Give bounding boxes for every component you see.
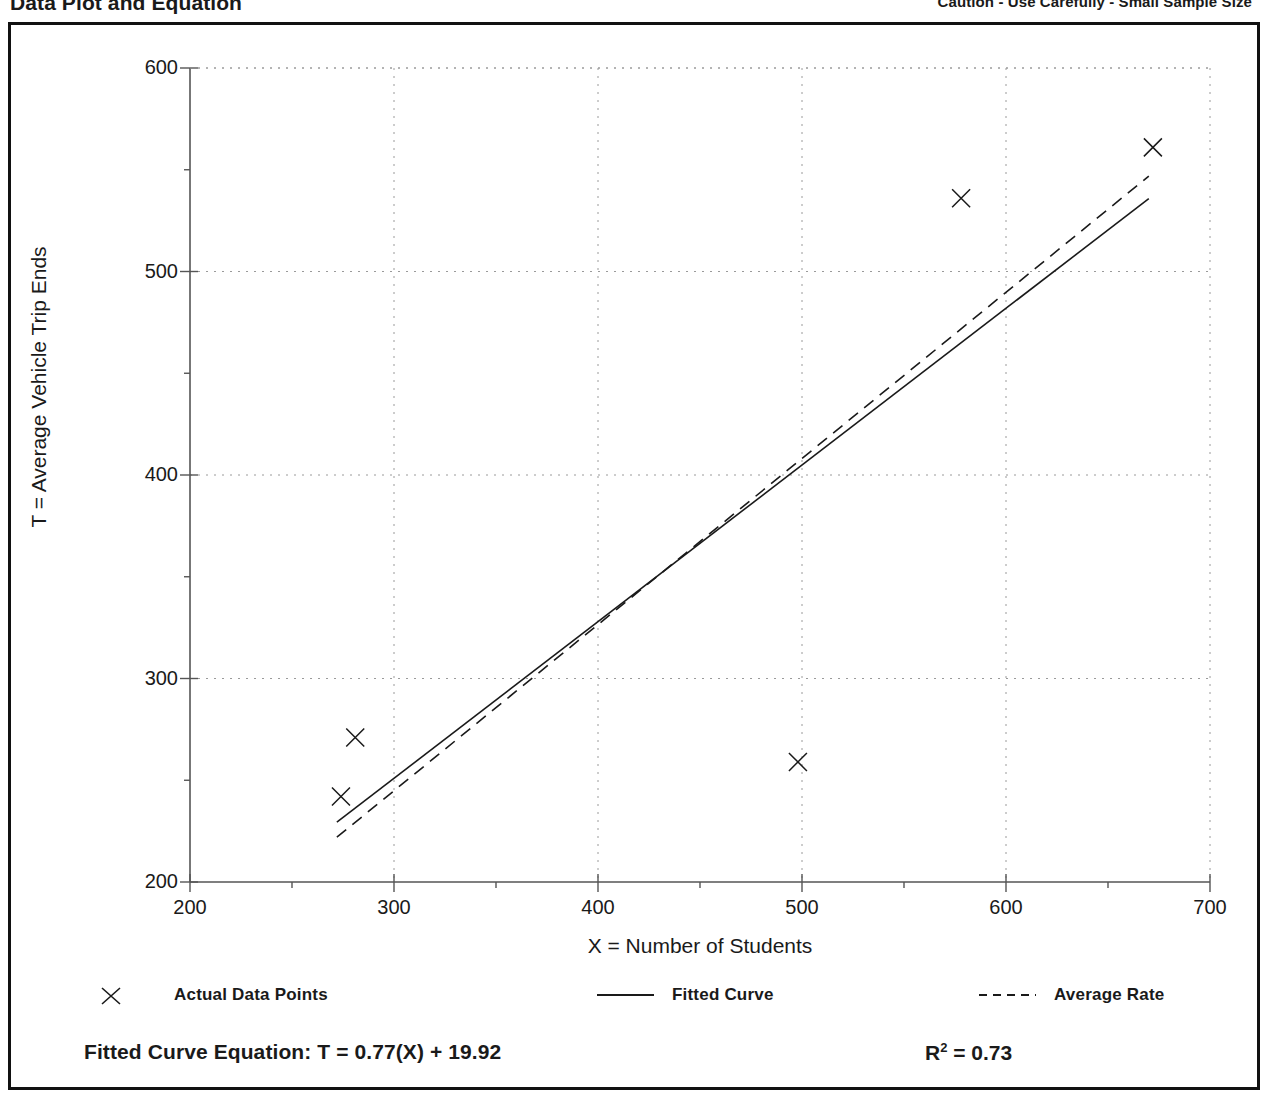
- chart-page: Data Plot and Equation Caution - Use Car…: [0, 0, 1270, 1100]
- chart-legend: Actual Data Points Fitted Curve Average …: [0, 978, 1270, 1018]
- legend-item-fitted-curve[interactable]: Fitted Curve: [596, 978, 774, 1012]
- x-tick-400: 400: [553, 896, 643, 919]
- r2-number: = 0.73: [947, 1041, 1012, 1064]
- dashed-line-icon: [978, 984, 1040, 1006]
- x-marker-icon: [98, 984, 160, 1006]
- y-tick-600: 600: [108, 56, 178, 79]
- axis-ticks: [180, 68, 1210, 892]
- y-tick-300: 300: [108, 667, 178, 690]
- r2-prefix: R: [925, 1041, 940, 1064]
- x-axis-title: X = Number of Students: [190, 934, 1210, 958]
- y-tick-400: 400: [108, 463, 178, 486]
- average-rate-line: [337, 176, 1149, 837]
- legend-item-average-rate[interactable]: Average Rate: [978, 978, 1164, 1012]
- data-series: [332, 138, 1162, 837]
- scatter-points: [332, 138, 1162, 805]
- data-point-marker: [332, 788, 350, 806]
- grid-lines: [190, 68, 1210, 882]
- legend-label: Actual Data Points: [174, 985, 328, 1005]
- data-point-marker: [789, 753, 807, 771]
- equation-row: Fitted Curve Equation: T = 0.77(X) + 19.…: [0, 1040, 1270, 1084]
- plot-area: 600 500 400 300 200 200 300 400 500 600 …: [0, 0, 1270, 1100]
- x-tick-700: 700: [1165, 896, 1255, 919]
- legend-label: Fitted Curve: [672, 985, 774, 1005]
- solid-line-icon: [596, 984, 658, 1006]
- y-tick-200: 200: [108, 870, 178, 893]
- x-tick-300: 300: [349, 896, 439, 919]
- fitted-curve-equation: Fitted Curve Equation: T = 0.77(X) + 19.…: [84, 1040, 501, 1064]
- x-tick-600: 600: [961, 896, 1051, 919]
- y-axis-title: T = Average Vehicle Trip Ends: [27, 177, 51, 597]
- y-tick-500: 500: [108, 260, 178, 283]
- legend-item-actual-data-points[interactable]: Actual Data Points: [98, 978, 328, 1012]
- fitted-curve-line: [337, 199, 1149, 823]
- legend-label: Average Rate: [1054, 985, 1164, 1005]
- data-point-marker: [346, 729, 364, 747]
- x-tick-500: 500: [757, 896, 847, 919]
- data-point-marker: [952, 189, 970, 207]
- x-tick-200: 200: [145, 896, 235, 919]
- data-point-marker: [1144, 138, 1162, 156]
- r-squared-value: R2 = 0.73: [925, 1040, 1012, 1065]
